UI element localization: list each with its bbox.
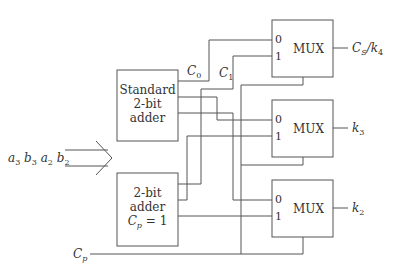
wire-c1-mux2-in1	[178, 136, 272, 200]
cp-select-label: Cp	[73, 247, 87, 266]
input-bus-arrow-icon	[65, 141, 112, 175]
input-bus-label: a3 b3 a2 b2	[8, 151, 70, 170]
mux3-in0-label: 0	[275, 194, 282, 206]
mux3-label: MUX	[293, 202, 324, 216]
wire-cp-mux1-sel	[241, 77, 303, 85]
mux1-in0-label: 0	[275, 34, 282, 46]
mux1-in1-label: 1	[275, 51, 282, 63]
mux2-label: MUX	[293, 122, 324, 136]
carry1-adder-label: 2-bit adder Cp = 1	[117, 186, 178, 233]
wire-std-mux3-in0	[178, 113, 272, 200]
wire-cp-mux2-sel	[241, 157, 303, 165]
mux1-label: MUX	[293, 42, 324, 56]
wire-std-mux2-in0	[178, 97, 272, 120]
mux2-in1-label: 1	[275, 131, 282, 143]
mux2-in0-label: 0	[275, 114, 282, 126]
mux3-output-label: k2	[352, 201, 364, 220]
c1-label: C1	[219, 66, 233, 85]
standard-adder-label: Standard 2-bit adder	[117, 83, 178, 125]
diagram-wiring	[0, 0, 393, 276]
c0-label: C0	[187, 64, 201, 83]
mux2-output-label: k3	[352, 121, 364, 140]
mux3-in1-label: 1	[275, 211, 282, 223]
mux1-output-label: CS/k4	[352, 41, 383, 60]
